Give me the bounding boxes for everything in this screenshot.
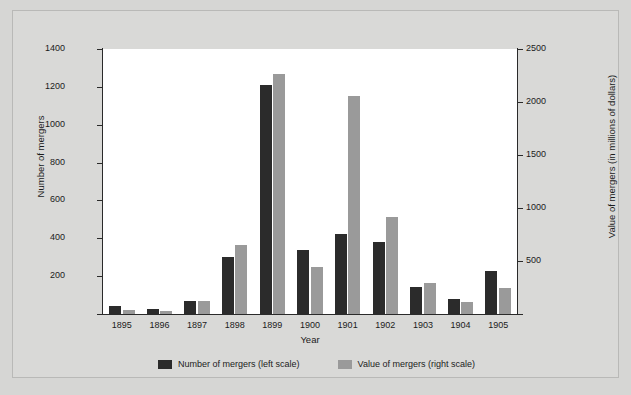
bar [448, 299, 460, 314]
bar [373, 242, 385, 314]
bar [235, 245, 247, 314]
x-axis-tick-label: 1901 [328, 320, 368, 330]
y-axis-right-tick-label: 2000 [526, 97, 566, 106]
y-axis-left-tick [97, 87, 102, 88]
x-axis-tick-label: 1899 [252, 320, 292, 330]
bar [335, 234, 347, 314]
legend-item-label: Value of mergers (right scale) [358, 359, 475, 369]
chart-screenshot: 200400600800100012001400 500100015002000… [0, 0, 631, 395]
y-axis-left-tick [97, 200, 102, 201]
x-axis-tick-label: 1898 [215, 320, 255, 330]
legend-item[interactable]: Value of mergers (right scale) [338, 359, 475, 369]
bar [461, 302, 473, 314]
bar-series-group [103, 49, 517, 314]
y-axis-left-tick [97, 314, 102, 315]
bar [147, 309, 159, 314]
y-axis-right-tick-label: 2500 [526, 44, 566, 53]
y-axis-right-title: Value of mergers (in millions of dollars… [606, 32, 617, 282]
x-axis-line [102, 314, 519, 315]
y-axis-left-tick-label: 200 [25, 271, 65, 280]
legend-item-label: Number of mergers (left scale) [178, 359, 300, 369]
y-axis-left-tick-label: 1400 [25, 44, 65, 53]
bar [160, 311, 172, 314]
bar [499, 288, 511, 314]
bar [410, 287, 422, 314]
bar [222, 257, 234, 314]
y-axis-left-title: Number of mergers [35, 67, 46, 247]
x-axis-tick-label: 1905 [478, 320, 518, 330]
bar [273, 74, 285, 314]
x-axis-tick-label: 1902 [365, 320, 405, 330]
bar [184, 301, 196, 314]
y-axis-left-tick [97, 125, 102, 126]
x-axis-tick-label: 1896 [139, 320, 179, 330]
bar [260, 85, 272, 314]
y-axis-left-tick [97, 238, 102, 239]
legend-item[interactable]: Number of mergers (left scale) [158, 359, 300, 369]
bar [348, 96, 360, 314]
bar [386, 217, 398, 314]
legend-swatch-value [338, 360, 352, 369]
y-axis-right-tick-label: 1500 [526, 150, 566, 159]
bar [297, 250, 309, 314]
bar [123, 310, 135, 314]
x-axis-tick-label: 1897 [177, 320, 217, 330]
bar [311, 267, 323, 314]
bar [485, 271, 497, 314]
y-axis-right-tick [518, 261, 523, 262]
y-axis-right-tick [518, 155, 523, 156]
y-axis-left-tick [97, 276, 102, 277]
bar [424, 283, 436, 314]
x-axis-title: Year [103, 334, 517, 345]
x-axis-tick-label: 1904 [441, 320, 481, 330]
y-axis-left-tick [97, 163, 102, 164]
bar [109, 306, 121, 314]
y-axis-right-tick [518, 208, 523, 209]
bar [198, 301, 210, 314]
y-axis-right-tick-label: 1000 [526, 203, 566, 212]
y-axis-right-tick [518, 102, 523, 103]
y-axis-right-tick-label: 500 [526, 256, 566, 265]
legend-swatch-number [158, 360, 172, 369]
y-axis-left-tick [97, 49, 102, 50]
chart-frame: 200400600800100012001400 500100015002000… [12, 10, 619, 378]
chart-legend: Number of mergers (left scale)Value of m… [13, 359, 620, 369]
y-axis-right-tick [518, 49, 523, 50]
x-axis-tick-label: 1900 [290, 320, 330, 330]
y-axis-right-tick [518, 314, 523, 315]
x-axis-tick-label: 1895 [102, 320, 142, 330]
y-axis-right-line [517, 48, 518, 315]
x-axis-tick-label: 1903 [403, 320, 443, 330]
